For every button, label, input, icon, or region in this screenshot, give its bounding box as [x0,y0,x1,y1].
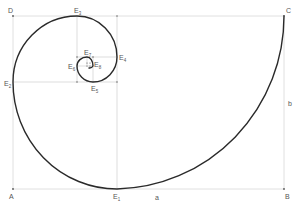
label-E7: E7 [84,49,92,58]
label-A: A [9,193,14,200]
label-side-a: a [155,194,159,201]
label-side-b: b [288,100,292,107]
spiral-curve [13,16,284,189]
label-C: C [286,7,291,14]
vertex-dots [12,15,285,190]
label-B: B [285,193,290,200]
label-D: D [8,7,13,14]
label-E4: E4 [119,54,127,63]
label-E8: E8 [94,61,102,70]
label-E6: E6 [68,63,76,72]
golden-spiral-diagram: D C A B a b E1 E2 E3 E4 E5 E6 E7 E8 [0,0,297,211]
label-E5: E5 [91,85,99,94]
subdivision-guides [13,16,117,189]
label-E3: E3 [74,7,82,16]
outer-rectangle [13,16,284,189]
label-E2: E2 [4,80,12,89]
label-E1: E1 [113,193,121,202]
